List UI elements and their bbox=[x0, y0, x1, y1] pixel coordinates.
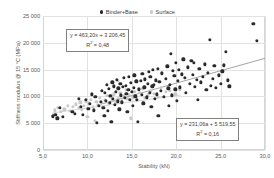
x-axis-tick-label: 10,0 bbox=[82, 153, 93, 159]
x-axis-tick-label: 30,0 bbox=[260, 153, 271, 159]
y-axis-title: Stiffness modulus @ 15 °C (MPa) bbox=[13, 16, 23, 150]
x-axis-tick-label: 15,0 bbox=[126, 153, 137, 159]
stiffness-vs-stability-scatter-chart: Binder+BaseSurface 05 00010 00015 00020 … bbox=[0, 0, 274, 178]
x-axis-tick-label: 25,0 bbox=[215, 153, 226, 159]
binder-base-equation: y = 463,20x + 3 206,45 bbox=[70, 32, 125, 40]
legend-label: Binder+Base bbox=[106, 9, 138, 15]
filled-circle-icon bbox=[150, 10, 153, 13]
surface-equation-box: y = 231,06a + 5 519,55 R2 = 0,16 bbox=[176, 118, 239, 141]
gridline-vertical bbox=[265, 16, 266, 150]
filled-circle-icon bbox=[100, 10, 103, 13]
surface-r2: R2 = 0,16 bbox=[180, 129, 235, 139]
x-axis-tick-label: 5,0 bbox=[39, 153, 47, 159]
gridline-horizontal bbox=[43, 150, 265, 151]
surface-equation: y = 231,06a + 5 519,55 bbox=[180, 121, 235, 129]
y-axis-tick-label: 10 000 bbox=[23, 93, 40, 99]
y-axis-tick-label: 25 000 bbox=[23, 13, 40, 19]
x-axis-tick-label: 20,0 bbox=[171, 153, 182, 159]
x-axis-title: Stability (kN) bbox=[43, 163, 265, 169]
y-axis-tick-label: 15 000 bbox=[23, 67, 40, 73]
y-axis-tick-label: 5 000 bbox=[26, 120, 40, 126]
legend-entry[interactable]: Binder+Base bbox=[100, 9, 138, 15]
binder-base-equation-box: y = 463,20x + 3 206,45 R2 = 0,48 bbox=[66, 29, 129, 52]
legend-entry[interactable]: Surface bbox=[150, 9, 175, 15]
y-axis-tick-label: 20 000 bbox=[23, 40, 40, 46]
legend-label: Surface bbox=[156, 9, 175, 15]
binder-base-r2: R2 = 0,48 bbox=[70, 40, 125, 50]
